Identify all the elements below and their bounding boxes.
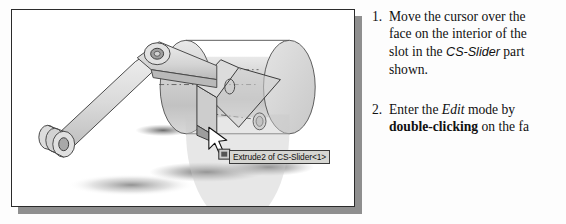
cad-viewport xyxy=(12,10,354,207)
step-text-fragment: Enter the xyxy=(389,102,442,117)
step-text: Enter the Edit mode by double-clicking o… xyxy=(389,101,529,136)
step-line: shown. xyxy=(389,61,527,78)
step-text-fragment: face on the interior of the xyxy=(389,26,527,41)
step-line: face on the interior of the xyxy=(389,25,527,42)
page-root: Extrude2 of CS-Slider<1> 1. Move the cur… xyxy=(0,0,566,224)
instruction-list: 1. Move the cursor over the face on the … xyxy=(370,0,566,224)
action-emphasis: double-clicking xyxy=(389,119,478,134)
mode-name-emphasis: Edit xyxy=(442,102,465,117)
step-line: Move the cursor over the xyxy=(389,8,527,25)
step-text-fragment: slot in the xyxy=(389,44,446,59)
step-text-fragment: part xyxy=(500,44,525,59)
step-number: 1. xyxy=(370,8,389,25)
cylinder-hole-inner xyxy=(256,116,263,126)
pin-joint-right[interactable] xyxy=(144,43,170,65)
step-number: 2. xyxy=(370,101,389,118)
entity-tooltip: Extrude2 of CS-Slider<1> xyxy=(229,150,330,164)
step-text: Move the cursor over the face on the int… xyxy=(389,8,527,79)
instruction-step-2: 2. Enter the Edit mode by double-clickin… xyxy=(370,101,529,136)
step-text-fragment: mode by xyxy=(465,102,516,117)
figure-frame: Extrude2 of CS-Slider<1> xyxy=(11,9,355,207)
step-line: Enter the Edit mode by xyxy=(389,101,529,118)
figure-container: Extrude2 of CS-Slider<1> xyxy=(0,0,366,224)
step-line: slot in the CS-Slider part xyxy=(389,43,527,61)
step-text-fragment: on the fa xyxy=(478,119,529,134)
step-text-fragment: shown. xyxy=(389,62,428,77)
step-line: double-clicking on the fa xyxy=(389,118,529,135)
step-text-fragment: Move the cursor over the xyxy=(389,9,526,24)
instruction-step-1: 1. Move the cursor over the face on the … xyxy=(370,8,527,79)
part-name-emphasis: CS-Slider xyxy=(446,45,500,59)
